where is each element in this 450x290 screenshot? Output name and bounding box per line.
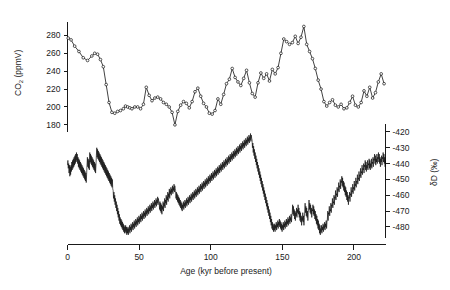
- dd-y-tick-group: -420-430-440-450-460-470-480: [386, 127, 410, 232]
- co2-data-point: [257, 81, 260, 84]
- co2-data-point: [282, 38, 285, 41]
- co2-y-tick-group: 180200220240260280: [46, 30, 67, 129]
- co2-data-point: [280, 52, 283, 55]
- co2-data-point: [179, 104, 182, 107]
- co2-data-point: [133, 106, 136, 109]
- co2-data-point: [228, 78, 231, 81]
- co2-data-point: [237, 81, 240, 84]
- co2-data-point: [325, 105, 328, 108]
- co2-data-point: [323, 100, 326, 103]
- co2-data-point: [67, 37, 70, 40]
- co2-data-point: [383, 82, 386, 85]
- co2-data-point: [363, 90, 366, 93]
- co2-data-point: [156, 96, 159, 99]
- deuterium-panel: -420-430-440-450-460-470-480 05010015020…: [65, 124, 439, 276]
- co2-data-point: [119, 109, 122, 112]
- co2-data-point: [303, 25, 306, 28]
- co2-data-point: [340, 103, 343, 106]
- co2-y-tick-label: 280: [46, 30, 60, 40]
- co2-data-point: [151, 99, 154, 102]
- co2-data-point: [70, 39, 73, 42]
- co2-data-point: [116, 110, 119, 113]
- co2-data-point: [211, 113, 214, 116]
- co2-data-point: [265, 73, 268, 76]
- x-tick-label: 100: [204, 252, 218, 262]
- co2-axis-title-units: (ppmV): [13, 50, 23, 80]
- co2-data-point: [96, 53, 99, 56]
- dd-y-tick-label: -470: [393, 206, 410, 216]
- co2-data-point: [377, 81, 380, 84]
- co2-data-point: [271, 68, 274, 71]
- co2-data-point: [357, 106, 360, 109]
- co2-data-point: [251, 92, 254, 95]
- co2-data-point: [260, 72, 263, 75]
- co2-y-tick-label: 260: [46, 48, 60, 58]
- co2-data-point: [122, 107, 125, 110]
- co2-data-point: [288, 43, 291, 46]
- co2-y-tick-label: 200: [46, 102, 60, 112]
- co2-data-point: [328, 101, 331, 104]
- co2-data-point: [139, 107, 142, 110]
- co2-data-point: [248, 81, 251, 84]
- co2-data-point: [174, 124, 177, 127]
- deuterium-series-line: [68, 134, 386, 235]
- co2-axis-title-main: CO: [13, 83, 23, 96]
- dd-y-tick-label: -450: [393, 174, 410, 184]
- dd-y-tick-label: -440: [393, 159, 410, 169]
- co2-data-point: [225, 82, 228, 85]
- co2-panel: 180200220240260280 CO2 (ppmV): [13, 22, 385, 132]
- dd-axis-title-main: δD: [429, 175, 439, 186]
- co2-data-point: [205, 106, 208, 109]
- co2-data-point: [159, 98, 162, 101]
- co2-data-point: [343, 107, 346, 110]
- co2-data-point: [142, 103, 145, 106]
- co2-data-point: [165, 103, 168, 106]
- dd-y-tick-label: -430: [393, 143, 410, 153]
- co2-data-point: [219, 103, 222, 106]
- co2-series-line: [68, 26, 384, 124]
- co2-data-point: [371, 97, 374, 100]
- co2-data-point: [254, 96, 257, 99]
- co2-data-point: [217, 98, 220, 101]
- co2-data-point: [162, 101, 165, 104]
- co2-data-point: [182, 100, 185, 103]
- co2-data-point: [194, 90, 197, 93]
- co2-data-point: [311, 57, 314, 60]
- co2-data-point: [242, 77, 245, 80]
- co2-data-point: [354, 104, 357, 107]
- co2-data-point: [314, 67, 317, 70]
- co2-data-point: [277, 66, 280, 69]
- dd-axis-title-units: (‰): [429, 158, 439, 175]
- co2-data-point: [351, 95, 354, 98]
- co2-data-point: [305, 43, 308, 46]
- co2-data-point: [337, 106, 340, 109]
- co2-data-point: [360, 101, 363, 104]
- co2-data-point: [274, 73, 277, 76]
- co2-data-point: [176, 110, 179, 113]
- co2-data-point: [374, 91, 377, 94]
- co2-data-point: [268, 80, 271, 83]
- co2-data-point: [199, 95, 202, 98]
- co2-data-point: [208, 112, 211, 115]
- co2-data-point: [222, 93, 225, 96]
- co2-data-point: [239, 84, 242, 87]
- co2-data-point: [136, 106, 139, 109]
- co2-data-point: [300, 36, 303, 39]
- co2-data-point: [171, 111, 174, 114]
- co2-data-point: [145, 86, 148, 89]
- co2-data-point: [380, 73, 383, 76]
- co2-data-point: [111, 111, 114, 114]
- dd-y-tick-label: -460: [393, 190, 410, 200]
- co2-data-point: [131, 107, 134, 110]
- co2-data-point: [368, 86, 371, 89]
- dd-y-tick-label: -480: [393, 222, 410, 232]
- vostok-ice-core-chart: 180200220240260280 CO2 (ppmV) -420-430-4…: [0, 0, 450, 290]
- co2-data-point: [197, 87, 200, 90]
- x-tick-label: 0: [65, 252, 70, 262]
- co2-data-point: [148, 94, 151, 97]
- co2-data-point: [317, 79, 320, 82]
- dd-x-tick-group: 050100150200: [65, 245, 361, 263]
- co2-data-point: [93, 52, 96, 55]
- co2-data-point: [320, 88, 323, 91]
- co2-data-point: [214, 109, 217, 112]
